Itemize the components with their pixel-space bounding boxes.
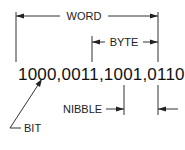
byte-label: BYTE	[110, 36, 139, 48]
byte-dimension: BYTE	[92, 36, 158, 62]
nibble-dimension: NIBBLE	[63, 85, 178, 115]
arrow-right-icon	[150, 40, 158, 45]
word-label: WORD	[67, 10, 102, 22]
binary-units-diagram: WORD BYTE 1000,0011,1001,0110 NIBBLE BIT	[0, 0, 185, 150]
arrow-left-icon	[16, 14, 24, 19]
binary-value: 1000,0011,1001,0110	[18, 65, 185, 84]
nibble-label: NIBBLE	[63, 103, 102, 115]
arrow-left-icon	[92, 40, 100, 45]
bit-pointer: BIT	[10, 79, 42, 134]
arrow-right-icon	[150, 14, 158, 19]
arrow-right-icon	[116, 107, 124, 112]
bit-label: BIT	[24, 122, 41, 134]
arrow-left-icon	[158, 107, 166, 112]
